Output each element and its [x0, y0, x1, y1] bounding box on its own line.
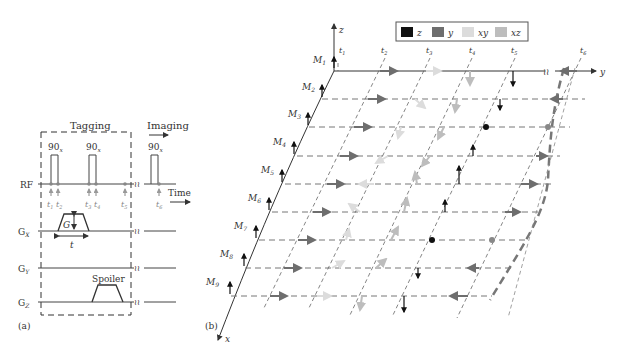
break-mark-rf: ≀≀ — [134, 180, 140, 189]
x-axis-label: x — [225, 334, 230, 344]
break-mark-gy: ≀≀ — [134, 264, 140, 273]
svg-text:t6: t6 — [156, 200, 163, 210]
gz-label: GZ — [18, 298, 30, 309]
pulse-label-2: 90x — [86, 142, 101, 153]
svg-text:t3: t3 — [426, 46, 432, 56]
y-axis-label: y — [599, 67, 606, 77]
svg-text:M3: M3 — [287, 109, 301, 120]
legend-swatch-z — [401, 27, 413, 37]
svg-text:t5: t5 — [121, 200, 127, 210]
svg-text:t2: t2 — [381, 46, 387, 56]
svg-text:M1: M1 — [312, 55, 326, 66]
gx-label: GX — [18, 227, 30, 238]
break-mark-y: ≀≀ — [543, 67, 549, 77]
xz-arrows-t4 — [360, 71, 470, 310]
rf-label: RF — [20, 180, 33, 190]
gy-label: GY — [18, 264, 30, 275]
svg-text:t3: t3 — [85, 200, 91, 210]
duration-label: t — [70, 240, 74, 250]
svg-text:M8: M8 — [219, 249, 233, 260]
time-point-labels: t1 t2 t3 t4 t5 t6 — [47, 200, 163, 210]
spoiler-gradient-trapezoid — [92, 285, 123, 302]
pulse-sequence-panel: Tagging Imaging 90x 90x 90x RF ≀≀ t1 t2 … — [18, 120, 191, 331]
pulse-label-1: 90x — [48, 142, 63, 153]
svg-text:M2: M2 — [301, 82, 315, 93]
svg-text:y: y — [447, 28, 454, 38]
svg-text:t2: t2 — [56, 200, 62, 210]
svg-text:t6: t6 — [580, 46, 587, 56]
svg-text:t4: t4 — [469, 46, 475, 56]
m-labels: M1 M2 M3 M4 M5 M6 M7 M8 M9 — [205, 55, 326, 288]
legend-swatch-xy — [462, 27, 474, 37]
time-axis-label: Time — [168, 188, 191, 198]
tagging-label: Tagging — [70, 120, 111, 131]
svg-text:t4: t4 — [94, 200, 100, 210]
svg-text:xy: xy — [478, 28, 489, 38]
panel-b-label: (b) — [205, 321, 218, 331]
magnetization-panel: z y xy xz z ≀≀ y x — [205, 22, 606, 344]
b-time-labels: t1 t2 t3 t4 t5 t6 — [339, 46, 587, 56]
legend: z y xy xz — [396, 22, 528, 41]
time-grid — [263, 58, 581, 318]
break-mark-gx: ≀≀ — [134, 227, 140, 236]
svg-text:t1: t1 — [47, 200, 53, 210]
time-point-arrows — [51, 189, 159, 196]
legend-swatch-y — [432, 27, 444, 37]
rf-pulse-2 — [89, 155, 96, 184]
svg-text:M9: M9 — [205, 277, 219, 288]
gradient-label: G — [63, 220, 70, 230]
spoiler-label: Spoiler — [92, 274, 125, 284]
z-arrows-t5 — [404, 71, 513, 312]
legend-swatch-xz — [495, 27, 507, 37]
svg-text:t1: t1 — [339, 46, 345, 56]
imaging-label: Imaging — [147, 120, 189, 131]
svg-text:M4: M4 — [272, 137, 286, 148]
rf-pulse-1 — [51, 155, 58, 184]
panel-a-label: (a) — [18, 321, 30, 331]
pulse-label-3: 90x — [148, 142, 163, 153]
z-axis-label: z — [338, 25, 344, 35]
z-magnetization-arrows — [230, 57, 334, 294]
svg-text:t5: t5 — [511, 46, 517, 56]
svg-text:M7: M7 — [233, 221, 247, 232]
figure-canvas: Tagging Imaging 90x 90x 90x RF ≀≀ t1 t2 … — [0, 0, 625, 353]
svg-text:M6: M6 — [247, 193, 261, 204]
null-point-t6 — [545, 124, 551, 130]
rf-pulse-3 — [151, 155, 158, 184]
svg-text:M5: M5 — [260, 165, 274, 176]
break-mark-gz: ≀≀ — [134, 298, 140, 307]
svg-text:z: z — [416, 28, 422, 38]
x-axis — [218, 71, 334, 340]
svg-text:xz: xz — [511, 28, 521, 38]
